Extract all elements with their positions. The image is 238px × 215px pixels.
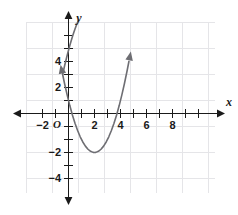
x-tick-label-4: 4 <box>117 119 124 131</box>
y-tick-label--2: −2 <box>48 146 61 158</box>
y-axis-top-arrowhead <box>65 11 73 19</box>
x-axis <box>13 109 225 118</box>
x-tick-label-6: 6 <box>143 119 149 131</box>
parabola-graph <box>59 51 133 152</box>
x-tick-label--2: −2 <box>36 119 49 131</box>
x-tick-label-8: 8 <box>169 119 175 131</box>
x-tick-label-2: 2 <box>91 119 97 131</box>
y-tick-label-2: 2 <box>55 81 61 93</box>
x-axis-left-arrowhead <box>13 110 21 118</box>
x-axis-right-arrowhead <box>217 110 225 118</box>
x-axis-label: x <box>225 95 232 109</box>
origin-label: O <box>53 118 61 130</box>
coordinate-graph-figure: −2 2 4 6 8 −4 −2 2 4 O x y <box>0 0 238 215</box>
graph-canvas: −2 2 4 6 8 −4 −2 2 4 O x y <box>0 0 238 215</box>
parabola-polyline <box>63 21 79 75</box>
y-tick-label--4: −4 <box>48 172 61 184</box>
y-axis-label: y <box>74 11 82 25</box>
y-axis-bottom-arrowhead <box>65 197 73 205</box>
grid-lines <box>26 22 215 193</box>
y-tick-label-4: 4 <box>55 55 62 67</box>
